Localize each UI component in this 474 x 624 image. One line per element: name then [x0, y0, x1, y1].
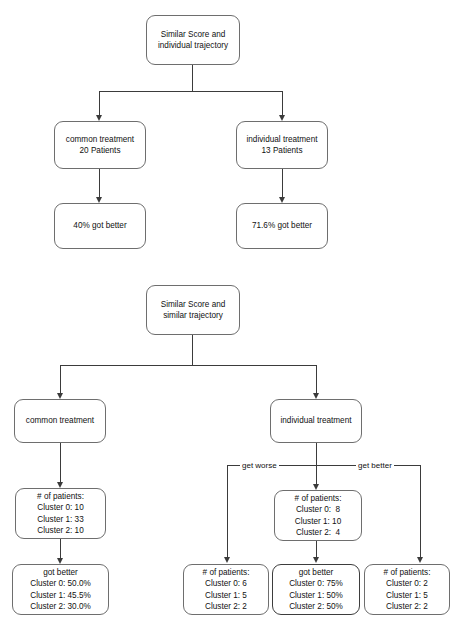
node-line-2: 20 Patients: [80, 145, 121, 156]
edge-t2-left-to-patients: [60, 443, 61, 485]
node-t2-left-got-better[interactable]: got better Cluster 0: 50.0% Cluster 1: 4…: [12, 564, 109, 615]
node-row-cluster1: Cluster 1: 5: [205, 590, 247, 601]
edge-t2-right-drop: [316, 365, 317, 396]
node-t2-get-better-patients[interactable]: # of patients: Cluster 0: 2 Cluster 1: 5…: [364, 564, 450, 615]
edge-t1-split-bar: [99, 91, 282, 92]
node-line-1: common treatment: [66, 134, 134, 145]
node-line-1: 71.6% got better: [252, 220, 312, 231]
node-row-cluster2: Cluster 2: 2: [386, 601, 428, 612]
node-row-cluster0: Cluster 0: 6: [205, 578, 247, 589]
node-t1-common-treatment[interactable]: common treatment 20 Patients: [54, 121, 146, 169]
edge-label-get-worse: get worse: [240, 461, 279, 470]
node-line-2: similar trajectory: [163, 310, 223, 321]
node-row-cluster2: Cluster 2: 4: [295, 527, 341, 538]
node-row-cluster2: Cluster 2: 30.0%: [30, 601, 91, 612]
node-t1-right-outcome[interactable]: 71.6% got better: [236, 203, 328, 249]
node-line-2: individual trajectory: [158, 40, 228, 51]
edge-t2-left-drop: [60, 365, 61, 396]
node-header: # of patients:: [203, 567, 250, 578]
node-header: # of patients:: [37, 491, 84, 502]
node-row-cluster1: Cluster 1: 50%: [289, 590, 343, 601]
node-header: # of patients:: [295, 493, 342, 504]
edge-t1-right-to-outcome: [282, 169, 283, 200]
arrowhead-t2-total-gotbetter: [313, 557, 319, 563]
edge-t1-right-drop: [282, 91, 283, 118]
edge-t1-root-stem: [192, 65, 193, 91]
node-similar-score-similar-trajectory[interactable]: Similar Score and similar trajectory: [146, 285, 240, 335]
node-row-cluster2: Cluster 2: 10: [37, 525, 83, 536]
node-t2-right-got-better[interactable]: got better Cluster 0: 75% Cluster 1: 50%…: [272, 564, 360, 615]
node-row-cluster2: Cluster 2: 50%: [289, 601, 343, 612]
node-t2-common-treatment[interactable]: common treatment: [14, 399, 106, 443]
node-similar-score-individual-trajectory[interactable]: Similar Score and individual trajectory: [146, 15, 240, 65]
flowchart-canvas: Similar Score and individual trajectory …: [0, 0, 474, 624]
node-line-1: Similar Score and: [161, 29, 226, 40]
node-header: # of patients:: [384, 567, 431, 578]
edge-t2-get-better-drop: [420, 465, 421, 560]
node-t2-get-worse-patients[interactable]: # of patients: Cluster 0: 6 Cluster 1: 5…: [183, 564, 269, 615]
node-line-1: 40% got better: [73, 220, 126, 231]
node-row-cluster1: Cluster 1: 10: [295, 516, 341, 527]
node-header: got better: [43, 567, 78, 578]
edge-t2-get-worse-drop: [227, 465, 228, 560]
edge-t2-root-stem: [192, 335, 193, 365]
arrowhead-t2-get-worse: [224, 557, 230, 563]
node-t2-individual-treatment[interactable]: individual treatment: [270, 399, 362, 443]
node-row-cluster1: Cluster 1: 45.5%: [30, 590, 91, 601]
node-row-cluster0: Cluster 0: 10: [37, 502, 83, 513]
node-row-cluster0: Cluster 0: 8: [295, 504, 341, 515]
node-line-1: Similar Score and: [161, 299, 226, 310]
node-row-cluster1: Cluster 1: 33: [37, 514, 83, 525]
node-row-cluster2: Cluster 2: 2: [205, 601, 247, 612]
node-header: got better: [299, 567, 334, 578]
node-line-1: individual treatment: [281, 415, 352, 426]
node-row-cluster0: Cluster 0: 50.0%: [30, 578, 91, 589]
arrowhead-t2-get-better: [417, 557, 423, 563]
node-row-cluster0: Cluster 0: 75%: [289, 578, 343, 589]
node-line-1: individual treatment: [247, 134, 318, 145]
node-t1-left-outcome[interactable]: 40% got better: [54, 203, 146, 249]
edge-t1-left-to-outcome: [99, 169, 100, 200]
node-row-cluster0: Cluster 0: 2: [386, 578, 428, 589]
node-line-1: common treatment: [26, 415, 94, 426]
node-t2-left-patients[interactable]: # of patients: Cluster 0: 10 Cluster 1: …: [15, 488, 106, 539]
node-row-cluster1: Cluster 1: 5: [386, 590, 428, 601]
node-t2-right-patients-total[interactable]: # of patients: Cluster 0: 8 Cluster 1: 1…: [274, 490, 362, 541]
node-t1-individual-treatment[interactable]: individual treatment 13 Patients: [236, 121, 328, 169]
node-line-2: 13 Patients: [262, 145, 303, 156]
edge-label-get-better: get better: [356, 461, 394, 470]
edge-t2-split-bar: [60, 365, 316, 366]
edge-t1-left-drop: [99, 91, 100, 118]
